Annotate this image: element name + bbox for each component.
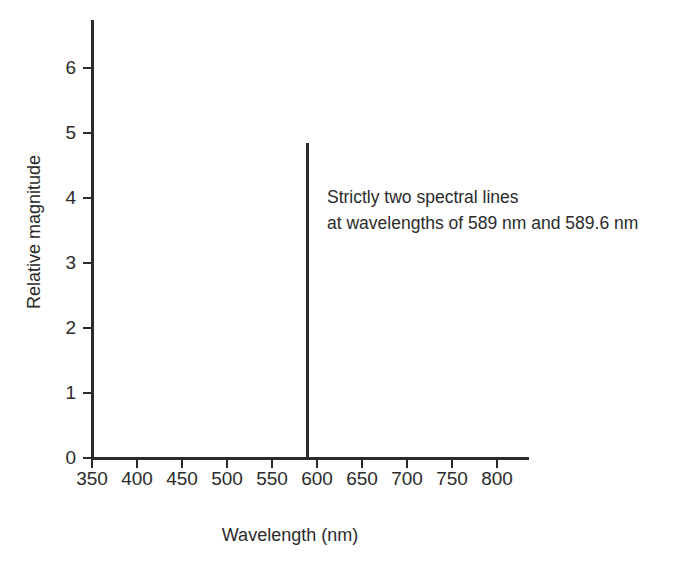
y-tick-label-wrap: 6 <box>28 58 76 77</box>
y-tick-label-6: 6 <box>52 58 76 77</box>
y-tick-label-2: 2 <box>52 318 76 337</box>
x-tick-750 <box>451 459 453 468</box>
y-tick-label-5: 5 <box>52 123 76 142</box>
x-tick-600 <box>316 459 318 468</box>
y-tick-2 <box>83 327 92 329</box>
y-tick-label-1: 1 <box>52 383 76 402</box>
x-tick-650 <box>361 459 363 468</box>
x-axis-title: Wavelength (nm) <box>90 524 490 546</box>
y-tick-1 <box>83 392 92 394</box>
x-axis-line <box>91 457 529 460</box>
x-tick-700 <box>406 459 408 468</box>
y-tick-label-4: 4 <box>52 188 76 207</box>
x-tick-label-800: 800 <box>469 468 525 490</box>
y-tick-3 <box>83 262 92 264</box>
y-tick-4 <box>83 197 92 199</box>
spectral-line-589nm <box>306 143 309 458</box>
y-tick-label-wrap: 1 <box>28 383 76 402</box>
x-tick-400 <box>136 459 138 468</box>
y-tick-label-3: 3 <box>52 253 76 272</box>
annotation-text: Strictly two spectral lines at wavelengt… <box>327 184 638 236</box>
x-tick-500 <box>226 459 228 468</box>
x-tick-350 <box>91 459 93 468</box>
x-tick-800 <box>496 459 498 468</box>
x-tick-550 <box>271 459 273 468</box>
y-tick-5 <box>83 132 92 134</box>
y-axis-title: Relative magnitude <box>24 122 44 342</box>
annotation-line-1: Strictly two spectral lines <box>327 184 638 210</box>
y-tick-label-0: 0 <box>52 448 76 467</box>
spectrum-chart-figure: 0123456 350400450500550600650700750800 S… <box>0 0 683 570</box>
y-tick-label-wrap: 0 <box>28 448 76 467</box>
annotation-line-2: at wavelengths of 589 nm and 589.6 nm <box>327 210 638 236</box>
y-tick-6 <box>83 67 92 69</box>
x-tick-450 <box>181 459 183 468</box>
